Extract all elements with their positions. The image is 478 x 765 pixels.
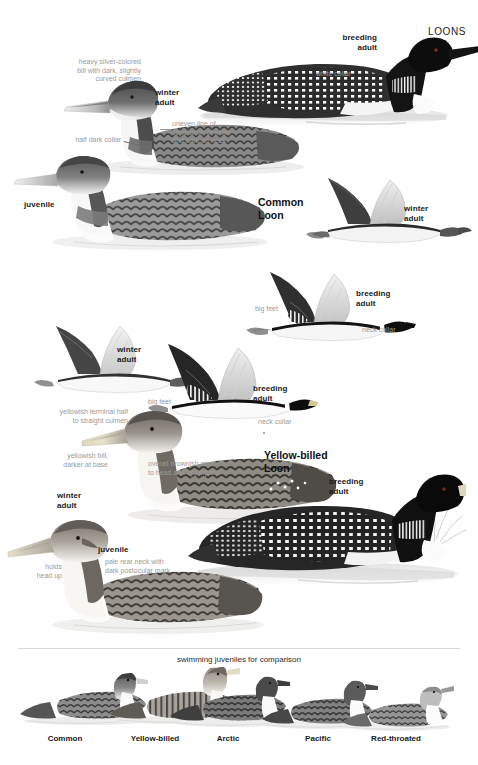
- annotation-uneven-line-separation: uneven line of separation of white and d…: [172, 120, 282, 146]
- label-common-loon-breeding-adult: breeding adult: [337, 33, 377, 52]
- label-yellow-billed-loon-winter-adult-flight: winter adult: [117, 345, 141, 364]
- comparison-label-red-throated: Red-throated: [344, 734, 448, 743]
- label-common-loon-winter-adult: winter adult: [155, 88, 179, 107]
- annotation-big-feet-yellow-billed: big feet: [148, 398, 171, 407]
- illustration-comparison-red-throated: [342, 690, 454, 732]
- annotation-half-dark-collar: half dark collar: [36, 136, 121, 145]
- species-heading-common-loon: Common Loon: [258, 196, 304, 221]
- annotation-holds-head-up: holds head up: [14, 563, 62, 580]
- illustration-yellow-billed-loon-juvenile-swimming: [8, 528, 268, 640]
- illustration-common-loon-winter-adult-flight: [304, 172, 474, 258]
- label-yellow-billed-loon-juvenile: juvenile: [98, 545, 129, 555]
- annotation-yellowish-terminal-half: yellowish terminal half to straight culm…: [8, 408, 128, 425]
- annotation-white-collar: white collar: [316, 70, 351, 79]
- annotation-heavy-silver-bill: heavy silver-colored bill with dark, sli…: [26, 58, 141, 84]
- annotation-big-feet-common: big feet: [255, 305, 278, 314]
- leader-line-uneven-separation: [160, 129, 172, 130]
- comparison-header: swimming juveniles for comparison: [0, 655, 478, 664]
- annotation-neck-collar-common: neck collar: [362, 326, 395, 335]
- label-yellow-billed-loon-winter-adult: winter adult: [57, 491, 81, 510]
- label-yellow-billed-loon-breeding-adult: breeding adult: [329, 477, 364, 496]
- comparison-label-arctic: Arctic: [188, 734, 268, 743]
- section-divider: [18, 648, 460, 649]
- annotation-yellowish-bill-darker-base: yellowish bill, darker at base: [18, 452, 108, 469]
- label-common-loon-winter-adult-flight: winter adult: [404, 204, 428, 223]
- label-common-loon-breeding-adult-flight: breeding adult: [356, 289, 391, 308]
- field-guide-plate: LOONS: [0, 0, 478, 765]
- label-common-loon-juvenile: juvenile: [24, 200, 55, 210]
- comparison-label-common: Common: [20, 734, 110, 743]
- label-yellow-billed-loon-breeding-adult-flight: breeding adult: [253, 384, 288, 403]
- annotation-pale-rear-neck: pale rear neck with dark postocular mark: [105, 558, 225, 575]
- species-heading-yellow-billed-loon: Yellow-billed Loon: [264, 449, 328, 474]
